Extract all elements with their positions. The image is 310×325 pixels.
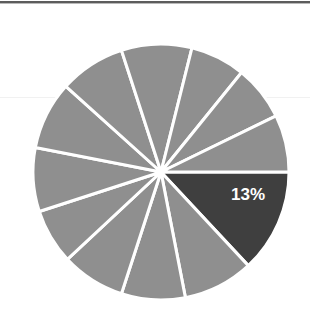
pie-chart: 13% — [0, 0, 310, 325]
pie-slice-label-highlighted: 13% — [231, 185, 265, 204]
pie-slices — [33, 44, 289, 300]
chart-figure: 13% — [0, 0, 310, 325]
